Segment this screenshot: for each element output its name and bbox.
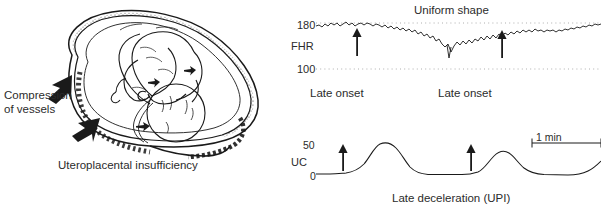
figure-late-deceleration-upi: Compression of vessels Uteroplacental in… — [0, 0, 601, 218]
fhr-axis-label: FHR — [291, 40, 314, 53]
amniotic-cavity-outline — [84, 23, 240, 133]
late-deceleration-caption: Late deceleration (UPI) — [392, 192, 510, 206]
fhr-tracing-panel — [316, 14, 601, 94]
late-onset-label-1: Late onset — [310, 87, 364, 101]
uc-onset-marker-2 — [466, 144, 475, 171]
uc-tick-0: 0 — [310, 170, 316, 182]
uniform-shape-annotation: Uniform shape — [414, 4, 489, 18]
compressed-vessel-band — [79, 72, 244, 157]
flow-arrow-icon-group — [136, 66, 196, 132]
uteroplacental-insufficiency-caption: Uteroplacental insufficiency — [58, 159, 198, 173]
compression-arrow-icon-2 — [72, 118, 100, 142]
scalebar-label: 1 min — [536, 131, 562, 143]
compression-of-vessels-label: Compression of vessels — [4, 89, 72, 116]
uc-onset-marker-1 — [338, 144, 347, 171]
uc-axis-label: UC — [291, 156, 307, 169]
uc-tick-50: 50 — [303, 139, 315, 151]
fhr-tick-180: 180 — [297, 19, 315, 32]
uc-trace — [316, 143, 601, 175]
fhr-tick-100: 100 — [297, 63, 315, 76]
fhr-onset-marker-1 — [352, 28, 361, 56]
late-onset-label-2: Late onset — [438, 87, 492, 101]
